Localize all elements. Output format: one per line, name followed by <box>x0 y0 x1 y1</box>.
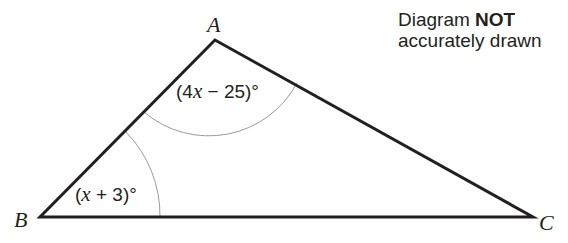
vertex-label-c: C <box>539 210 554 235</box>
note-line-1: Diagram NOT <box>398 9 542 30</box>
vertex-label-a: A <box>205 12 221 37</box>
angle-label-b: (x + 3)° <box>75 182 137 206</box>
not-to-scale-note: Diagram NOT accurately drawn <box>398 9 542 51</box>
angle-label-a: (4x − 25)° <box>176 79 259 103</box>
note-emphasis: NOT <box>475 9 515 30</box>
note-line-2: accurately drawn <box>398 30 542 51</box>
vertex-label-b: B <box>14 207 27 232</box>
